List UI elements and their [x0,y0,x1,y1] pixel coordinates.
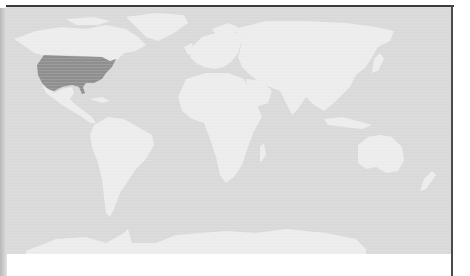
map-frame-right-border [451,5,453,276]
world-map[interactable] [6,7,451,254]
world-map-svg [6,7,451,254]
